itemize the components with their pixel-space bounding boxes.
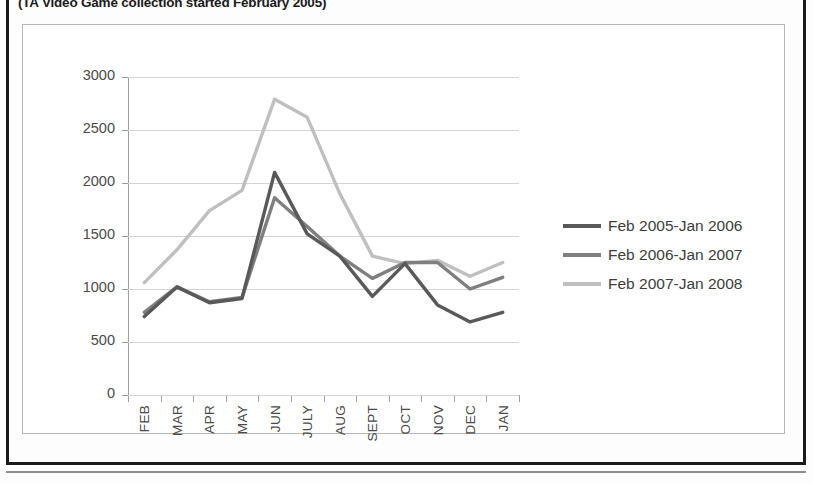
legend-color-swatch	[563, 224, 601, 228]
x-tick-mark	[356, 396, 357, 402]
x-tick-mark	[421, 396, 422, 402]
scanned-page: (TA Video Game collection started Februa…	[0, 0, 813, 484]
legend-item[interactable]: Feb 2005-Jan 2006	[563, 211, 793, 240]
x-axis-tick-label: AUG	[333, 405, 347, 435]
legend-color-swatch	[563, 282, 601, 286]
x-axis-tick-label: JULY	[300, 405, 314, 438]
legend-item-label: Feb 2005-Jan 2006	[608, 217, 742, 235]
y-axis-tick-label: 2500	[59, 120, 115, 136]
x-tick-mark	[324, 396, 325, 402]
y-axis-tick-label: 3000	[59, 67, 115, 83]
x-tick-mark	[454, 396, 455, 402]
legend-item[interactable]: Feb 2007-Jan 2008	[563, 269, 793, 298]
x-tick-mark	[486, 396, 487, 402]
chart-legend: Feb 2005-Jan 2006Feb 2006-Jan 2007Feb 20…	[563, 211, 793, 298]
y-axis-tick-label: 2000	[59, 173, 115, 189]
x-tick-mark	[519, 396, 520, 402]
line-series-group	[128, 77, 519, 395]
x-axis-tick-label: NOV	[431, 405, 445, 435]
x-axis-tick-label: MAR	[170, 405, 184, 436]
chart-caption: (TA Video Game collection started Februa…	[18, 0, 578, 13]
x-tick-mark	[389, 396, 390, 402]
x-axis-tick-label: DEC	[463, 405, 477, 434]
chart-frame: 050010001500200025003000 FEBMARAPRMAYJUN…	[22, 24, 785, 434]
legend-item-label: Feb 2007-Jan 2008	[608, 275, 742, 293]
x-tick-mark	[193, 396, 194, 402]
x-axis-tick-label: APR	[202, 405, 216, 434]
y-axis-tick-label: 500	[59, 332, 115, 348]
x-axis-labels: FEBMARAPRMAYJUNJULYAUGSEPTOCTNOVDECJAN	[128, 405, 519, 475]
line-series	[144, 172, 502, 322]
y-axis-tick-label: 1000	[59, 279, 115, 295]
plot-area	[128, 77, 519, 395]
x-axis-tick-label: OCT	[398, 405, 412, 434]
y-axis-tick-label: 0	[59, 385, 115, 401]
x-axis-tick-label: MAY	[235, 405, 249, 434]
x-tick-mark	[258, 396, 259, 402]
x-axis-tick-label: JUN	[268, 405, 282, 432]
x-axis-tick-label: JAN	[496, 405, 510, 431]
x-tick-mark	[161, 396, 162, 402]
y-axis-tick-label: 1500	[59, 226, 115, 242]
x-tick-mark	[128, 396, 129, 402]
x-tick-mark	[226, 396, 227, 402]
legend-color-swatch	[563, 253, 601, 257]
legend-item[interactable]: Feb 2006-Jan 2007	[563, 240, 793, 269]
x-axis-tick-label: SEPT	[365, 405, 379, 441]
x-tick-mark	[291, 396, 292, 402]
line-series	[144, 198, 502, 312]
x-axis-tick-label: FEB	[137, 405, 151, 432]
legend-item-label: Feb 2006-Jan 2007	[608, 246, 742, 264]
line-series	[144, 99, 502, 282]
